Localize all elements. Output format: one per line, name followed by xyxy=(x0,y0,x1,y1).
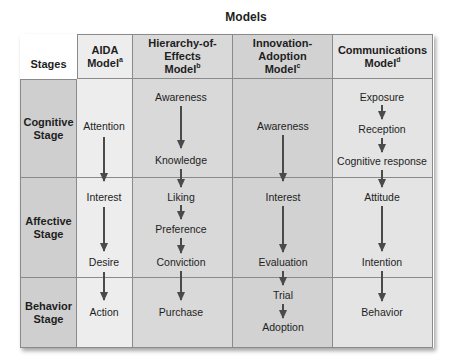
arrow-down-icon xyxy=(180,205,182,219)
arrow-down-icon xyxy=(180,169,182,187)
ia-adoption: Adoption xyxy=(262,321,303,333)
header-communications: Communications Modeld xyxy=(333,34,433,79)
aida-desire: Desire xyxy=(89,256,119,268)
ia-interest: Interest xyxy=(265,191,300,203)
arrow-down-icon xyxy=(381,206,383,251)
stage-affective: AffectiveStage xyxy=(20,178,77,278)
arrow-down-icon xyxy=(282,271,284,285)
arrow-down-icon xyxy=(282,135,284,181)
arrow-down-icon xyxy=(282,206,284,252)
arrow-down-icon xyxy=(180,271,182,300)
arrow-down-icon xyxy=(381,105,383,119)
arrow-down-icon xyxy=(381,170,383,187)
ia-trial: Trial xyxy=(273,289,293,301)
hoe-liking: Liking xyxy=(167,191,194,203)
header-aida: AIDA Modela xyxy=(77,34,133,79)
ia-awareness: Awareness xyxy=(257,120,309,132)
header-innovation-adoption: Innovation-Adoption Modelc xyxy=(233,34,333,79)
header-hierarchy-of-effects: Hierarchy-of-Effects Modelb xyxy=(133,34,233,79)
comm-exposure: Exposure xyxy=(360,91,404,103)
hoe-knowledge: Knowledge xyxy=(155,154,207,166)
comm-intention: Intention xyxy=(362,256,402,268)
hoe-conviction: Conviction xyxy=(156,256,205,268)
comm-cognitive-response: Cognitive response xyxy=(337,155,427,167)
stages-header: Stages xyxy=(20,58,77,70)
arrow-down-icon xyxy=(103,207,105,251)
hoe-awareness: Awareness xyxy=(155,91,207,103)
arrow-down-icon xyxy=(282,304,284,318)
ia-evaluation: Evaluation xyxy=(258,256,307,268)
arrow-down-icon xyxy=(180,106,182,148)
aida-interest: Interest xyxy=(86,191,121,203)
comm-attitude: Attitude xyxy=(364,191,400,203)
stage-behavior: BehaviorStage xyxy=(20,278,77,348)
models-title: Models xyxy=(0,10,452,24)
hoe-preference: Preference xyxy=(155,223,206,235)
arrow-down-icon xyxy=(103,272,105,300)
hoe-purchase: Purchase xyxy=(159,306,203,318)
arrow-down-icon xyxy=(381,138,383,152)
arrow-down-icon xyxy=(180,238,182,253)
arrow-down-icon xyxy=(381,271,383,301)
aida-attention: Attention xyxy=(83,120,124,132)
stage-cognitive: CognitiveStage xyxy=(20,79,77,178)
aida-action: Action xyxy=(89,306,118,318)
comm-reception: Reception xyxy=(358,123,405,135)
arrow-down-icon xyxy=(103,137,105,181)
comm-behavior: Behavior xyxy=(361,306,402,318)
